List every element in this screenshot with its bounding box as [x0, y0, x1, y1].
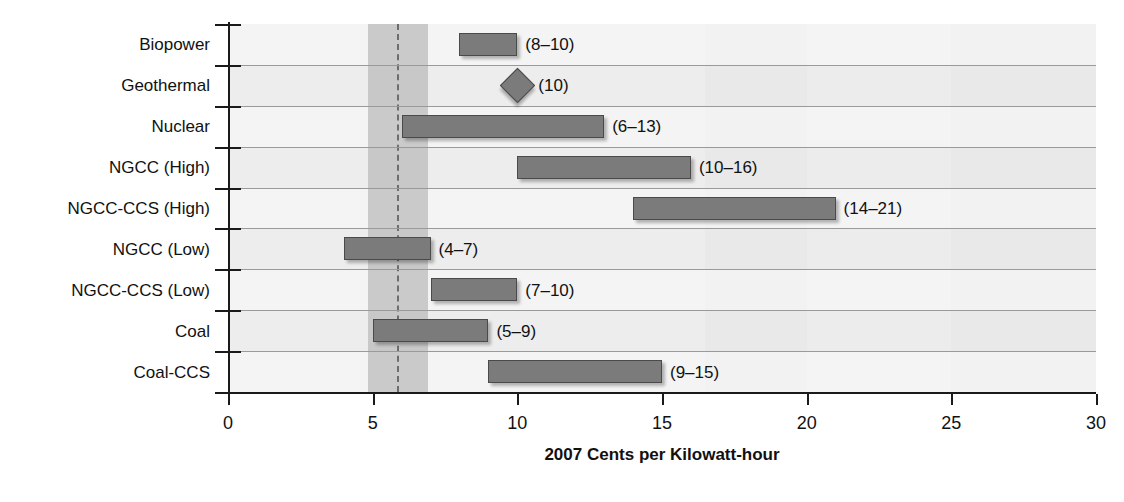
bar-value-label: (8–10) — [525, 36, 574, 53]
data-bar — [373, 319, 489, 342]
category-label: NGCC (High) — [0, 159, 210, 176]
gridline — [228, 65, 1096, 66]
x-axis-tick — [662, 394, 664, 405]
x-tick-label: 30 — [1076, 414, 1116, 432]
row-stripe — [228, 269, 1096, 310]
gridline — [228, 351, 1096, 352]
row-stripe — [228, 310, 1096, 351]
range-bar-chart: (8–10)(10)(6–13)(10–16)(14–21)(4–7)(7–10… — [0, 0, 1124, 502]
x-axis-title: 2007 Cents per Kilowatt-hour — [228, 446, 1096, 463]
gridline — [228, 147, 1096, 148]
gridline — [228, 310, 1096, 311]
x-axis-tick — [373, 394, 375, 405]
y-axis-tick — [215, 269, 241, 271]
row-stripe — [228, 65, 1096, 106]
data-bar — [517, 156, 691, 179]
y-axis-line — [228, 22, 230, 394]
x-axis-tick — [517, 394, 519, 405]
x-axis-tick — [1096, 394, 1098, 405]
bar-value-label: (4–7) — [439, 241, 479, 258]
data-bar — [344, 237, 431, 260]
x-tick-label: 25 — [931, 414, 971, 432]
category-label: Nuclear — [0, 118, 210, 135]
category-label: Coal-CCS — [0, 364, 210, 381]
x-tick-label: 15 — [642, 414, 682, 432]
bar-value-label: (10–16) — [699, 159, 758, 176]
x-tick-label: 5 — [353, 414, 393, 432]
bar-value-label: (14–21) — [844, 200, 903, 217]
row-stripe — [228, 351, 1096, 392]
y-axis-tick — [215, 228, 241, 230]
x-axis-tick — [228, 394, 230, 405]
x-tick-label: 10 — [497, 414, 537, 432]
gridline — [228, 228, 1096, 229]
bar-value-label: (10) — [538, 77, 568, 94]
x-axis-tick — [807, 394, 809, 405]
bar-value-label: (7–10) — [525, 282, 574, 299]
data-bar — [431, 278, 518, 301]
x-tick-label: 0 — [208, 414, 248, 432]
category-label: NGCC-CCS (Low) — [0, 282, 210, 299]
y-axis-tick — [215, 188, 241, 190]
category-label: Biopower — [0, 36, 210, 53]
bar-value-label: (6–13) — [612, 118, 661, 135]
x-axis-tick — [951, 394, 953, 405]
y-axis-tick — [215, 65, 241, 67]
y-axis-tick — [215, 106, 241, 108]
data-bar — [402, 115, 605, 138]
category-label: Coal — [0, 323, 210, 340]
category-label: Geothermal — [0, 77, 210, 94]
data-bar — [459, 33, 517, 56]
y-axis-tick — [215, 351, 241, 353]
row-stripe — [228, 106, 1096, 147]
data-bar — [633, 197, 836, 220]
gridline — [228, 188, 1096, 189]
gridline — [228, 106, 1096, 107]
bar-value-label: (9–15) — [670, 364, 719, 381]
data-bar — [488, 360, 662, 383]
y-axis-tick — [215, 310, 241, 312]
x-tick-label: 20 — [787, 414, 827, 432]
bar-value-label: (5–9) — [496, 323, 536, 340]
gridline — [228, 269, 1096, 270]
y-axis-tick — [215, 147, 241, 149]
category-label: NGCC (Low) — [0, 241, 210, 258]
category-label: NGCC-CCS (High) — [0, 200, 210, 217]
plot-area: (8–10)(10)(6–13)(10–16)(14–21)(4–7)(7–10… — [228, 24, 1096, 392]
y-axis-tick — [215, 24, 241, 26]
row-stripe — [228, 24, 1096, 65]
